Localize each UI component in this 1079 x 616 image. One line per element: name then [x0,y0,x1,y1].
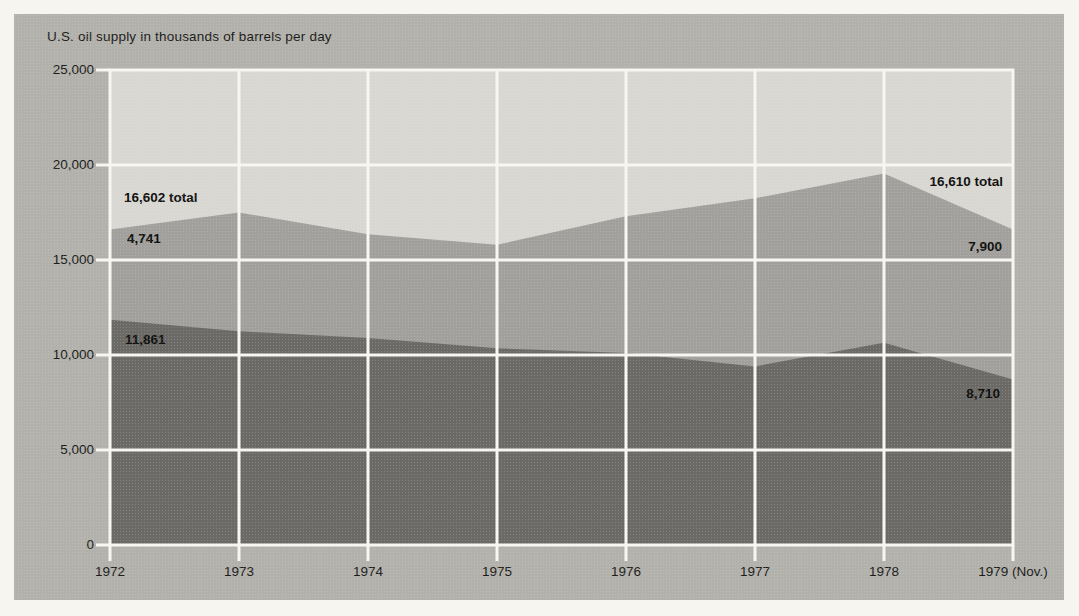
x-axis-tick-label: 1973 [179,563,299,581]
annotation-right-lower-band: 8,710 [966,386,1000,402]
x-axis-tick-label: 1977 [695,563,815,581]
x-axis-tick-label: 1979 (Nov.) [953,563,1073,581]
x-axis-tick-label: 1974 [308,563,428,581]
y-axis-tick-label: 10,000 [14,346,94,364]
y-axis-tick-label: 0 [14,536,94,554]
annotation-left-upper-band: 4,741 [127,231,161,247]
y-axis-tick-label: 5,000 [14,441,94,459]
x-axis-tick-label: 1975 [437,563,557,581]
x-axis-tick-label: 1978 [824,563,944,581]
scanned-chart-page: { "page": { "margin_background": "#f6f5f… [0,0,1079,616]
x-axis-tick-label: 1976 [566,563,686,581]
chart-panel: U.S. oil supply in thousands of barrels … [14,14,1064,600]
area-lower-band [110,320,1013,545]
y-axis-tick-label: 15,000 [14,251,94,269]
annotation-right-total: 16,610 total [929,174,1003,190]
annotation-left-total: 16,602 total [124,190,198,206]
y-axis-tick-label: 25,000 [14,61,94,79]
y-axis-tick-label: 20,000 [14,156,94,174]
x-axis-tick-label: 1972 [50,563,170,581]
annotation-left-lower-band: 11,861 [125,332,166,348]
chart-svg [14,14,1064,600]
annotation-right-upper-band: 7,900 [968,239,1002,255]
